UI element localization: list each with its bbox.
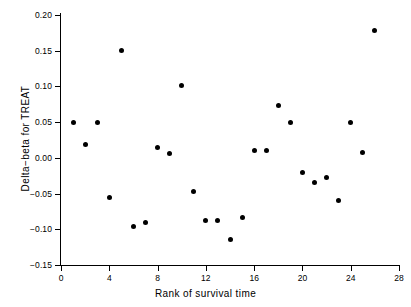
y-axis-tick-mark <box>55 158 60 159</box>
data-point <box>83 142 88 147</box>
data-point <box>107 195 112 200</box>
x-axis-tick-mark <box>206 266 207 271</box>
y-axis-tick-mark <box>55 122 60 123</box>
data-point <box>203 218 208 223</box>
y-axis-tick-mark <box>55 15 60 16</box>
data-point <box>131 224 136 229</box>
x-axis-tick-mark <box>61 266 62 271</box>
x-axis-tick-label: 0 <box>49 274 73 283</box>
y-axis-tick-mark <box>55 86 60 87</box>
y-axis-tick-mark <box>55 51 60 52</box>
x-axis-tick-label: 24 <box>339 274 363 283</box>
y-axis-tick-mark <box>55 194 60 195</box>
scatter-plot-figure: 0.200.150.100.050.00−0.05−0.10−0.15 0481… <box>0 0 411 307</box>
x-axis-tick-label: 28 <box>387 274 411 283</box>
x-axis-title: Rank of survival time <box>0 288 411 299</box>
data-point <box>95 120 100 125</box>
x-axis-tick-mark <box>254 266 255 271</box>
data-point <box>264 148 269 153</box>
x-axis-tick-mark <box>109 266 110 271</box>
data-point <box>155 145 160 150</box>
x-axis-tick-mark <box>351 266 352 271</box>
data-point <box>167 151 172 156</box>
data-point <box>71 120 76 125</box>
x-axis-line <box>60 265 400 266</box>
data-point <box>252 148 257 153</box>
data-point <box>360 150 365 155</box>
data-point <box>324 175 329 180</box>
y-axis-tick-mark <box>55 229 60 230</box>
y-axis-title: Delta−beta for TREAT <box>20 29 31 249</box>
data-point <box>348 120 353 125</box>
y-axis-tick-label: 0.20 <box>0 11 52 20</box>
data-point <box>119 48 124 53</box>
data-point <box>276 103 281 108</box>
data-point <box>215 218 220 223</box>
x-axis-tick-label: 20 <box>290 274 314 283</box>
x-axis-tick-label: 12 <box>194 274 218 283</box>
data-point <box>179 83 184 88</box>
y-axis-line <box>60 13 61 266</box>
y-axis-tick-mark <box>55 265 60 266</box>
data-point <box>372 28 377 33</box>
x-axis-tick-mark <box>399 266 400 271</box>
data-point <box>143 220 148 225</box>
x-axis-tick-label: 4 <box>97 274 121 283</box>
y-axis-tick-label: −0.15 <box>0 261 52 270</box>
x-axis-tick-mark <box>158 266 159 271</box>
x-axis-tick-label: 16 <box>242 274 266 283</box>
data-point <box>312 180 317 185</box>
data-point <box>191 189 196 194</box>
x-axis-tick-label: 8 <box>146 274 170 283</box>
data-point <box>300 170 305 175</box>
data-point <box>240 215 245 220</box>
data-point <box>228 237 233 242</box>
data-point <box>288 120 293 125</box>
x-axis-tick-mark <box>302 266 303 271</box>
data-point <box>336 198 341 203</box>
